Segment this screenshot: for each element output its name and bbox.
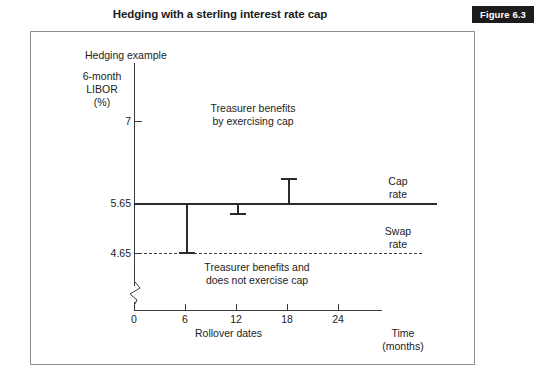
y-axis-title-line-1: 6-month [71,70,133,83]
y-axis-title: 6-month LIBOR (%) [71,70,133,109]
x-tick-mark-18 [287,304,288,311]
y-tick-label-465: 4.65 [81,247,131,259]
time-axis-title-line-1: Time [372,327,434,340]
x-tick-label-6: 6 [175,313,195,325]
swap-rate-label: Swap rate [374,225,422,251]
chart-panel: Hedging example 6-month LIBOR (%) 7 5.65… [30,31,475,365]
annotation-lower: Treasurer benefits and does not exercise… [173,261,341,287]
bar-stem-month-6 [186,203,188,254]
cap-rate-label-line-2: rate [374,188,422,201]
bar-endcap-month-12 [230,213,246,215]
x-tick-label-18: 18 [277,313,297,325]
cap-rate-reference-line [134,203,437,205]
annotation-upper: Treasurer benefits by exercising cap [183,102,323,128]
bar-stem-month-18 [288,179,290,204]
chart-subtitle: Hedging example [85,49,167,62]
page-title: Hedging with a sterling interest rate ca… [0,8,440,20]
y-tick-mark-7 [135,121,142,122]
y-tick-label-565: 5.65 [81,197,131,209]
cap-rate-label: Cap rate [374,175,422,201]
x-axis-line [134,310,382,311]
x-tick-mark-0 [134,304,135,311]
x-tick-mark-6 [185,304,186,311]
x-axis-title: Rollover dates [195,327,262,340]
time-axis-title-line-2: (months) [372,340,434,353]
y-tick-label-7: 7 [93,115,131,127]
annotation-lower-line-1: Treasurer benefits and [173,261,341,274]
annotation-upper-line-2: by exercising cap [183,115,323,128]
y-axis-title-line-3: (%) [71,96,133,109]
axis-break-icon [127,282,143,304]
swap-rate-label-line-2: rate [374,238,422,251]
annotation-upper-line-1: Treasurer benefits [183,102,323,115]
bar-endcap-month-18 [281,178,297,180]
x-tick-label-0: 0 [124,313,144,325]
figure-tag-badge: Figure 6.3 [472,6,534,23]
annotation-lower-line-2: does not exercise cap [173,274,341,287]
swap-rate-label-line-1: Swap [374,225,422,238]
bar-endcap-month-6 [179,252,195,254]
x-tick-label-12: 12 [226,313,246,325]
x-tick-mark-12 [236,304,237,311]
x-tick-mark-24 [338,304,339,311]
y-axis-title-line-2: LIBOR [71,83,133,96]
time-axis-title: Time (months) [372,327,434,353]
swap-rate-reference-line [134,253,422,254]
cap-rate-label-line-1: Cap [374,175,422,188]
x-tick-label-24: 24 [328,313,348,325]
